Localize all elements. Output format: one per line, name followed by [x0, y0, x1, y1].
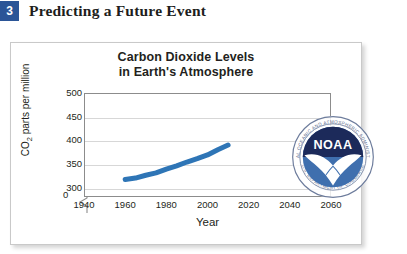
- y-axis-zero-label: 0: [63, 189, 68, 200]
- x-tick-label: 1960: [105, 200, 145, 210]
- y-axis-title-subscript: 2: [25, 137, 34, 141]
- y-tick-label: 450: [56, 112, 82, 122]
- y-axis-title: CO2 parts per million: [20, 50, 34, 170]
- y-axis-title-suffix: parts per million: [20, 64, 31, 137]
- page-title: Predicting a Future Event: [29, 1, 206, 21]
- x-tick-label: 2060: [311, 200, 351, 210]
- y-tick-label: 400: [56, 135, 82, 145]
- x-tick-label: 2040: [270, 200, 310, 210]
- section-header: 3 Predicting a Future Event: [0, 0, 407, 34]
- y-axis-ticks: 300350400450500: [52, 43, 82, 244]
- x-tick-label: 2000: [188, 200, 228, 210]
- x-tick-label: 2020: [229, 200, 269, 210]
- x-tick-label: 1980: [146, 200, 186, 210]
- x-tick-label: 1940: [64, 200, 104, 210]
- figure-card: Carbon Dioxide Levels in Earth's Atmosph…: [10, 42, 362, 245]
- y-tick-label: 300: [56, 183, 82, 193]
- x-axis-ticks: 1940196019802000202020402060: [84, 200, 331, 212]
- svg-text:NOAA: NOAA: [313, 138, 352, 152]
- y-tick-label: 350: [56, 159, 82, 169]
- y-axis-title-prefix: CO: [20, 141, 31, 156]
- x-axis-title: Year: [84, 216, 331, 228]
- y-tick-label: 500: [56, 88, 82, 98]
- chart-line-series: [125, 145, 228, 180]
- noaa-seal-icon: NATIONAL OCEANIC AND ATMOSPHERIC ADMINIS…: [291, 115, 375, 199]
- section-number-badge: 3: [0, 1, 19, 21]
